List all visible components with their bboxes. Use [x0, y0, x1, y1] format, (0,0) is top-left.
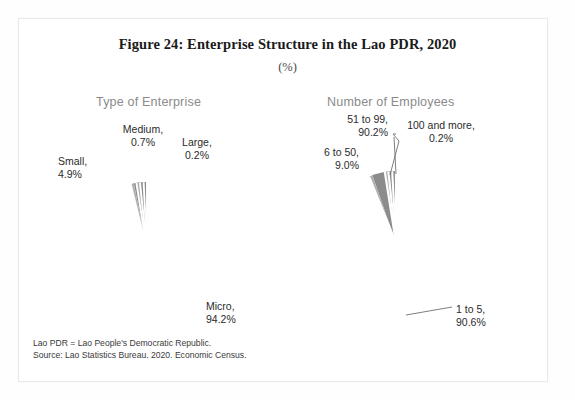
pie-chart-number-of-employees: [324, 171, 468, 315]
panel-heading-type-of-enterprise: Type of Enterprise: [96, 95, 201, 109]
footnote-abbreviation: Lao PDR = Lao People's Democratic Republ…: [33, 338, 211, 350]
pie-label-1-to-5: 1 to 5, 90.6%: [456, 303, 520, 328]
pie-right-svg: [324, 171, 468, 315]
pie-label-6-to-50: 6 to 50, 9.0%: [297, 146, 359, 171]
pie-label-51-to-99: 51 to 99, 90.2%: [316, 113, 388, 138]
pie-label-100-and-more-line1: 100 and more,: [396, 119, 486, 132]
pie-slice-1-to-5: [324, 171, 444, 243]
pie-label-large-line2: 0.2%: [170, 149, 224, 162]
pie-label-100-and-more: 100 and more, 0.2%: [396, 119, 486, 144]
pie-label-51-to-99-line2: 90.2%: [316, 126, 388, 139]
pie-label-6-to-50-line1: 6 to 50,: [297, 146, 359, 159]
pie-label-large-line1: Large,: [170, 136, 224, 149]
figure-title: Figure 24: Enterprise Structure in the L…: [0, 36, 575, 53]
figure-subtitle-unit: (%): [0, 60, 575, 75]
pie-left-svg: [79, 182, 215, 318]
pie-label-small: Small, 4.9%: [58, 155, 112, 180]
pie-label-micro-line2: 94.2%: [206, 313, 276, 326]
pie-left-dividers: [131, 182, 147, 250]
pie-label-100-and-more-line2: 0.2%: [396, 132, 486, 145]
figure-page: Figure 24: Enterprise Structure in the L…: [0, 0, 575, 400]
pie-label-1-to-5-line1: 1 to 5,: [456, 303, 520, 316]
pie-label-medium-line1: Medium,: [110, 123, 176, 136]
pie-label-micro: Micro, 94.2%: [206, 300, 276, 325]
pie-label-6-to-50-line2: 9.0%: [297, 159, 359, 172]
pie-label-large: Large, 0.2%: [170, 136, 224, 161]
pie-label-small-line2: 4.9%: [58, 168, 112, 181]
footnote-source: Source: Lao Statistics Bureau. 2020. Eco…: [33, 350, 247, 362]
pie-label-medium: Medium, 0.7%: [110, 123, 176, 148]
pie-chart-type-of-enterprise: [79, 182, 215, 318]
panel-heading-number-of-employees: Number of Employees: [327, 95, 454, 109]
pie-label-micro-line1: Micro,: [206, 300, 276, 313]
pie-label-51-to-99-line1: 51 to 99,: [316, 113, 388, 126]
pie-label-1-to-5-line2: 90.6%: [456, 316, 520, 329]
pie-label-small-line1: Small,: [58, 155, 112, 168]
pie-label-medium-line2: 0.7%: [110, 136, 176, 149]
